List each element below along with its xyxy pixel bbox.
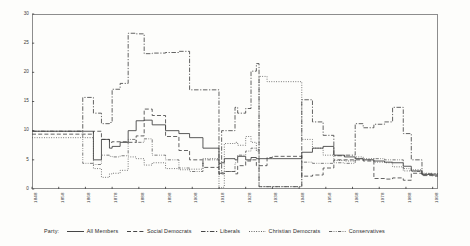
legend-line-icon [127,229,144,234]
x-tick-label: 1938 [274,192,278,203]
legend-title: Party: [44,228,59,234]
x-tick-label: 1848 [34,192,38,203]
x-tick-label: 1908 [194,192,198,203]
x-tick-label: 1978 [381,192,385,203]
legend-label: Conservatives [349,228,385,234]
legend-label: Social Democrats [147,228,192,234]
legend-entry-4[interactable]: Conservatives [329,228,385,234]
x-tick-label: 1958 [328,192,332,203]
legend-entry-1[interactable]: Social Democrats [127,228,191,234]
legend-line-icon [201,229,218,234]
x-tick-label: 1948 [301,192,305,203]
x-tick-label: 1928 [248,192,252,203]
legend-entry-2[interactable]: Liberals [201,228,241,234]
legend-line-icon [249,229,266,234]
x-tick-label: 1878 [114,192,118,203]
x-tick-label: 1998 [435,192,439,203]
x-tick-label: 1968 [355,192,359,203]
x-tick-label: 1888 [141,192,145,203]
x-tick-label: 1918 [221,192,225,203]
chart-legend: Party: All MembersSocial DemocratsLibera… [44,225,444,237]
legend-line-icon [329,229,346,234]
x-tick-label: 1858 [61,192,65,203]
x-tick-label: 1898 [168,192,172,203]
legend-entry-3[interactable]: Christian Democrats [249,228,320,234]
chart-page: 051015202530 184818581868187818881898190… [0,0,470,246]
legend-label: All Members [87,228,119,234]
x-tick-label: 1868 [87,192,91,203]
x-axis: 1848185818681878188818981908191819281938… [0,0,470,246]
x-tick-label: 1988 [408,192,412,203]
legend-label: Liberals [220,228,240,234]
legend-entry-0[interactable]: All Members [67,228,118,234]
legend-line-icon [67,229,84,234]
legend-label: Christian Democrats [269,228,321,234]
